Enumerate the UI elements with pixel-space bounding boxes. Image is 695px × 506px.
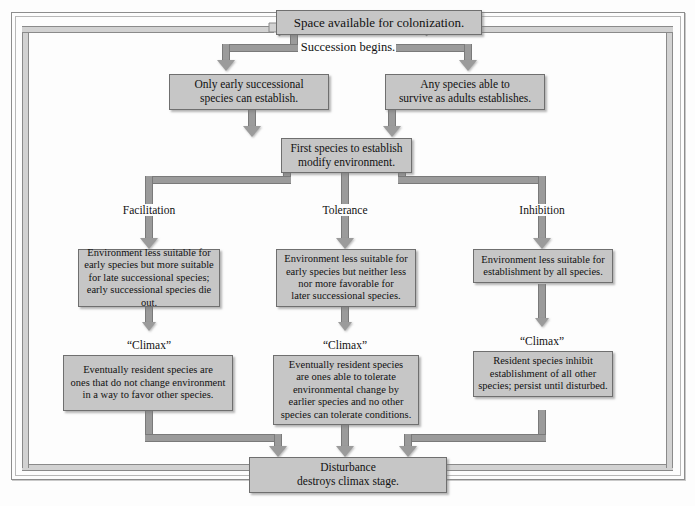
label-succession-begins: Succession begins. xyxy=(248,40,448,55)
edge-center-climax-down xyxy=(341,424,349,448)
branch-label-tolerance: Tolerance xyxy=(295,204,395,216)
node-facilitation-climax-line-3: in a way to favor other species. xyxy=(83,389,214,400)
branch-label-facilitation-text: Facilitation xyxy=(123,204,175,216)
diagram-canvas: Space available for colonization. Succes… xyxy=(0,0,695,506)
edge-tolerance-arrowhead-icon xyxy=(336,238,354,249)
edge-early-to-first-arrowhead-icon xyxy=(243,126,261,137)
edge-first-branch-left-h xyxy=(145,176,291,184)
climax-label-right: “Climax” xyxy=(492,335,592,347)
edge-first-branch-right-h xyxy=(398,176,546,184)
edge-left-climax-arrowhead-icon xyxy=(269,446,287,457)
node-any-species-line-1: Any species able to xyxy=(420,78,510,90)
node-facilitation-outcome-line-2: early species but more suitable xyxy=(84,259,213,270)
node-tolerance-outcome-line-3: nor more favorable for xyxy=(298,278,393,289)
node-tolerance-climax-line-5: species can tolerate conditions. xyxy=(281,409,412,420)
node-inhibition-outcome-line-1: Environment less suitable for xyxy=(481,254,604,265)
edge-tolerance-stem-upper xyxy=(341,170,349,204)
climax-label-left-text: “Climax” xyxy=(127,339,171,351)
loop-right-vertical-segment xyxy=(666,26,673,468)
node-tolerance-outcome-line-4: later successional species. xyxy=(291,290,400,301)
node-first-species-line-2: modify environment. xyxy=(298,156,395,168)
edge-inhibition-stem xyxy=(538,216,546,240)
loop-right-bottom-segment xyxy=(447,464,673,471)
loop-left-bottom-segment xyxy=(22,464,249,471)
node-only-early-line-1: Only early successional xyxy=(194,78,303,90)
node-first-species-line-1: First species to establish xyxy=(290,142,402,154)
edge-right-climax-across xyxy=(404,434,546,442)
node-inhibition-climax-line-1: Resident species inhibit xyxy=(493,355,593,366)
climax-label-center: “Climax” xyxy=(295,339,395,351)
edge-inhibition-drop xyxy=(538,176,546,204)
node-only-early-line-2: species can establish. xyxy=(200,92,298,104)
node-facilitation-outcome-line-4: early successional species die out. xyxy=(87,284,212,307)
edge-inhibition-to-climax-arrowhead-icon xyxy=(535,318,549,327)
node-inhibition-climax-line-2: establishment of all other xyxy=(490,368,596,379)
node-tolerance-outcome-line-2: early species but neither less xyxy=(286,266,406,277)
node-disturbance-line-1: Disturbance xyxy=(320,461,376,473)
node-any-species-establishes[interactable]: Any species able to survive as adults es… xyxy=(385,74,545,110)
node-tolerance-outcome-line-1: Environment less suitable for xyxy=(284,253,407,264)
node-first-species-modify[interactable]: First species to establish modify enviro… xyxy=(281,138,412,173)
node-inhibition-outcome-line-2: establishment by all species. xyxy=(483,266,603,277)
loop-left-top-segment xyxy=(22,26,274,33)
node-facilitation-climax-line-1: Eventually resident species are xyxy=(83,364,213,375)
node-only-early-successional[interactable]: Only early successional species can esta… xyxy=(169,74,329,110)
edge-left-climax-across xyxy=(145,434,282,442)
edge-any-to-first-arrowhead-icon xyxy=(383,126,401,137)
node-tolerance-climax[interactable]: Eventually resident species are ones abl… xyxy=(273,355,419,425)
node-tolerance-climax-line-4: earlier species and no other xyxy=(289,396,404,407)
node-tolerance-outcome[interactable]: Environment less suitable for early spec… xyxy=(276,249,416,307)
edge-facilitation-drop xyxy=(145,176,153,204)
node-facilitation-climax[interactable]: Eventually resident species are ones tha… xyxy=(63,355,233,411)
branch-label-facilitation: Facilitation xyxy=(99,204,199,216)
node-facilitation-outcome[interactable]: Environment less suitable for early spec… xyxy=(78,249,220,307)
node-facilitation-outcome-line-3: for late successional species; xyxy=(89,272,210,283)
branch-label-tolerance-text: Tolerance xyxy=(322,204,367,216)
node-space-available-label: Space available for colonization. xyxy=(281,15,477,30)
edge-tolerance-to-climax-arrowhead-icon xyxy=(338,322,352,331)
edge-tolerance-stem-lower xyxy=(341,216,349,240)
climax-label-center-text: “Climax” xyxy=(323,339,367,351)
node-inhibition-climax-line-3: species; persist until disturbed. xyxy=(478,380,607,391)
node-facilitation-outcome-line-1: Environment less suitable for xyxy=(87,247,210,258)
edge-right-climax-arrowhead-icon xyxy=(399,446,417,457)
node-disturbance[interactable]: Disturbance destroys climax stage. xyxy=(249,457,447,493)
edge-to-early-only-arrowhead-icon xyxy=(217,60,235,71)
node-disturbance-line-2: destroys climax stage. xyxy=(297,475,399,487)
edge-inhibition-arrowhead-icon xyxy=(533,238,551,249)
node-facilitation-climax-line-2: ones that do not change environment xyxy=(71,377,226,388)
node-tolerance-climax-line-3: environmental change by xyxy=(293,384,399,395)
edge-facilitation-to-climax-arrowhead-icon xyxy=(142,322,156,331)
node-tolerance-climax-line-2: are ones able to tolerate xyxy=(296,371,396,382)
climax-label-right-text: “Climax” xyxy=(520,335,564,347)
label-succession-begins-text: Succession begins. xyxy=(301,40,395,54)
node-tolerance-climax-line-1: Eventually resident species xyxy=(289,359,403,370)
edge-facilitation-stem xyxy=(145,216,153,240)
node-space-available[interactable]: Space available for colonization. xyxy=(276,10,482,35)
branch-label-inhibition: Inhibition xyxy=(492,204,592,216)
edge-to-any-species-arrowhead-icon xyxy=(459,60,477,71)
node-inhibition-climax[interactable]: Resident species inhibit establishment o… xyxy=(473,351,613,397)
edge-inhibition-to-climax-stem xyxy=(538,284,546,320)
node-inhibition-outcome[interactable]: Environment less suitable for establishm… xyxy=(473,249,613,283)
loop-left-vertical-segment xyxy=(22,26,29,468)
node-any-species-line-2: survive as adults establishes. xyxy=(399,92,531,104)
branch-label-inhibition-text: Inhibition xyxy=(519,204,564,216)
edge-center-climax-arrowhead-icon xyxy=(336,446,354,457)
climax-label-left: “Climax” xyxy=(99,339,199,351)
